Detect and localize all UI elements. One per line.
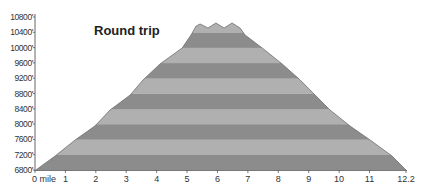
elevation-band (35, 94, 408, 110)
y-tick-label: 8400' (14, 104, 33, 114)
chart-title: Round trip (94, 23, 160, 38)
y-tick-label: 8800' (14, 89, 33, 99)
x-tick-label: 2 (93, 174, 98, 184)
elevation-band (35, 155, 408, 171)
x-axis-ticks: 0 mile123456789101112.2 (32, 170, 415, 184)
elevation-band (35, 139, 408, 155)
elevation-band (35, 17, 408, 33)
x-tick-label: 10 (334, 174, 344, 184)
elevation-profile-chart: Round trip 6800'7200'7600'8000'8400'8800… (0, 0, 432, 195)
y-tick-label: 9600' (14, 58, 33, 68)
elevation-band (35, 124, 408, 140)
y-tick-label: 10000' (10, 43, 34, 53)
elevation-band (35, 63, 408, 79)
x-tick-label: 12.2 (397, 174, 415, 184)
y-tick-label: 8000' (14, 119, 33, 129)
elevation-band (35, 32, 408, 48)
elevation-band (35, 109, 408, 125)
y-tick-label: 10800' (10, 12, 34, 22)
x-tick-label: 8 (276, 174, 281, 184)
y-tick-label: 7200' (14, 150, 33, 160)
x-tick-label: 9 (306, 174, 311, 184)
elevation-band (35, 48, 408, 64)
elevation-band (35, 2, 408, 18)
x-tick-label: 6 (215, 174, 220, 184)
elevation-band (35, 78, 408, 94)
x-tick-label: 4 (154, 174, 159, 184)
x-tick-label: 7 (245, 174, 250, 184)
x-tick-label: 11 (365, 174, 374, 184)
y-tick-label: 9200' (14, 73, 33, 83)
x-tick-label: 5 (185, 174, 190, 184)
x-tick-label: 0 mile (32, 174, 56, 184)
y-tick-label: 10400' (10, 27, 34, 37)
y-axis-ticks: 6800'7200'7600'8000'8400'8800'9200'9600'… (10, 12, 35, 175)
x-tick-label: 1 (63, 174, 68, 184)
y-tick-label: 7600' (14, 134, 33, 144)
elevation-bands (35, 2, 408, 171)
y-tick-label: 6800' (14, 165, 33, 175)
x-tick-label: 3 (124, 174, 129, 184)
